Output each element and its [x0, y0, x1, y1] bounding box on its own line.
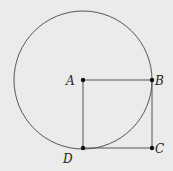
- label-b: B: [154, 74, 164, 88]
- label-d: D: [62, 152, 73, 166]
- label-a: A: [65, 74, 75, 88]
- point-c: [150, 146, 154, 150]
- diagram-canvas: A B C D: [0, 0, 173, 171]
- point-a: [81, 78, 85, 82]
- point-d: [81, 146, 85, 150]
- point-b: [150, 78, 154, 82]
- geometry-diagram: A B C D: [0, 0, 173, 171]
- label-c: C: [155, 142, 164, 156]
- square-abcd: [83, 80, 152, 148]
